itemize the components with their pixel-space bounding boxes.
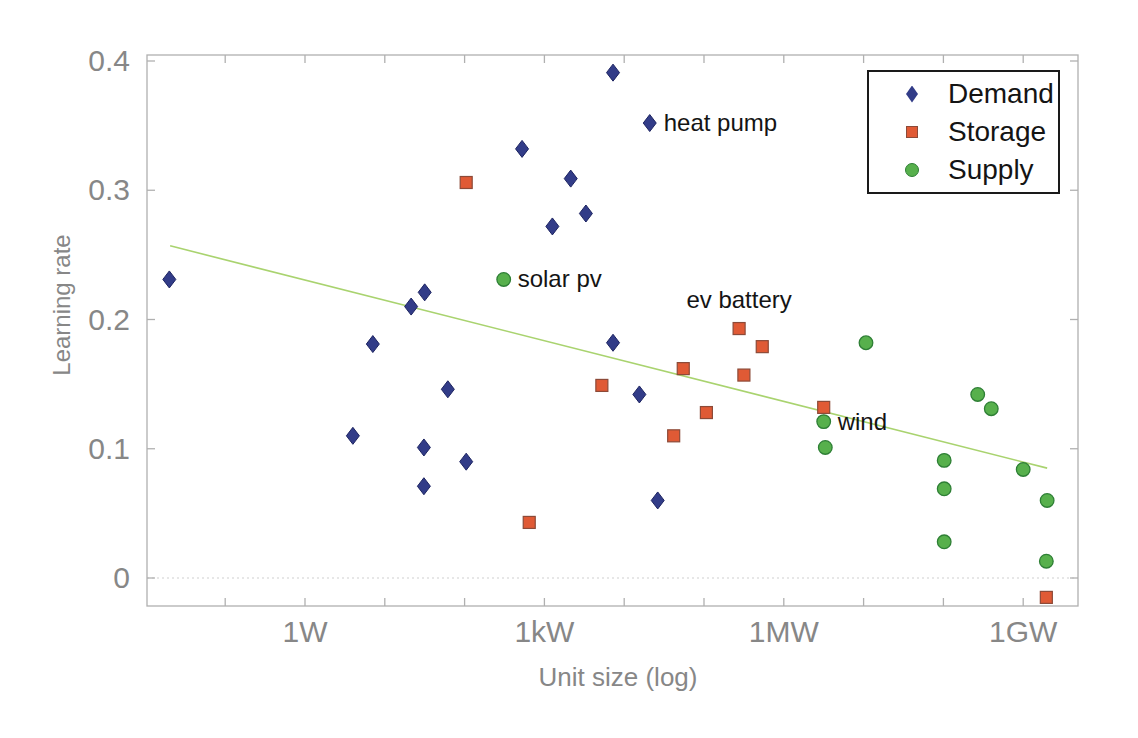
x-tick-label-1kw: 1kW xyxy=(464,614,624,650)
demand-diamond-icon xyxy=(906,86,918,103)
legend-label-storage: Storage xyxy=(948,116,1046,148)
annotation-wind: wind xyxy=(838,408,887,436)
x-tick-label-1w: 1W xyxy=(225,614,385,650)
learning-rate-scatter-figure: Learning rate Unit size (log) 0.4 0.3 0.… xyxy=(0,0,1138,738)
legend-item-supply: Supply xyxy=(869,151,1058,189)
storage-square-icon xyxy=(906,126,918,138)
annotation-solar-pv: solar pv xyxy=(518,265,602,293)
legend-label-supply: Supply xyxy=(948,154,1034,186)
supply-circle-icon xyxy=(905,163,919,177)
y-tick-label-0_4: 0.4 xyxy=(28,43,130,79)
legend-marker-cell xyxy=(891,126,933,138)
x-axis-title: Unit size (log) xyxy=(418,662,818,692)
y-tick-label-0_3: 0.3 xyxy=(28,172,130,208)
annotation-ev-battery: ev battery xyxy=(664,286,814,314)
legend-item-storage: Storage xyxy=(869,113,1058,151)
x-tick-label-1gw: 1GW xyxy=(943,614,1103,650)
y-tick-label-0_1: 0.1 xyxy=(28,431,130,467)
x-tick-label-1mw: 1MW xyxy=(704,614,864,650)
legend-marker-cell xyxy=(891,163,933,177)
legend-item-demand: Demand xyxy=(869,75,1058,113)
legend-marker-cell xyxy=(891,86,933,103)
legend: Demand Storage Supply xyxy=(867,70,1060,194)
y-tick-label-0: 0 xyxy=(28,560,130,596)
y-tick-label-0_2: 0.2 xyxy=(28,302,130,338)
legend-label-demand: Demand xyxy=(948,78,1054,110)
annotation-heat-pump: heat pump xyxy=(664,109,777,137)
